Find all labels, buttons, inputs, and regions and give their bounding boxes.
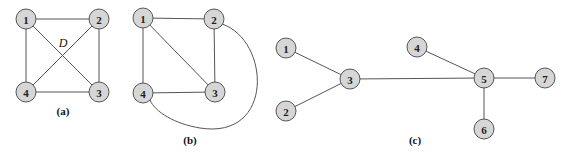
node-label: 6: [481, 124, 487, 136]
caption-c: (c): [409, 134, 422, 147]
node-c-3: 3: [340, 69, 360, 89]
node-c-4: 4: [407, 37, 427, 57]
node-c-5: 5: [474, 68, 494, 88]
edge-b-1-3: [143, 18, 215, 92]
annotation-a: D: [58, 36, 68, 50]
edge-c-2-3: [286, 79, 350, 111]
edge-c-3-5: [350, 78, 484, 79]
node-b-3: 3: [205, 82, 225, 102]
node-label: 1: [23, 14, 29, 26]
node-b-4: 4: [133, 83, 153, 103]
node-label: 2: [96, 14, 102, 26]
edge-b-2-3: [214, 19, 215, 92]
node-c-7: 7: [535, 68, 555, 88]
edge-b-3-4: [143, 92, 215, 93]
curved-edge-b-2-4: [150, 24, 257, 129]
edge-b-1-2: [143, 18, 214, 19]
node-c-6: 6: [474, 119, 494, 139]
caption-b: (b): [183, 134, 197, 147]
node-label: 3: [212, 87, 218, 99]
node-a-4: 4: [16, 82, 36, 102]
node-b-1: 1: [133, 8, 153, 28]
node-b-2: 2: [204, 9, 224, 29]
node-label: 2: [283, 106, 289, 118]
node-label: 4: [414, 42, 420, 54]
node-a-2: 2: [89, 9, 109, 29]
node-c-1: 1: [276, 38, 296, 58]
node-label: 3: [96, 87, 102, 99]
node-label: 2: [211, 14, 217, 26]
graph-figure: 123412341234567 (a)D(b)(c): [0, 0, 573, 155]
node-label: 1: [140, 13, 146, 25]
edge-c-4-5: [417, 47, 484, 78]
node-label: 7: [542, 73, 548, 85]
captions-layer: (a)D(b)(c): [57, 36, 422, 147]
caption-a: (a): [57, 105, 70, 118]
node-label: 4: [23, 87, 29, 99]
edge-c-1-3: [286, 48, 350, 79]
node-label: 1: [283, 43, 289, 55]
node-label: 5: [481, 73, 487, 85]
node-c-2: 2: [276, 101, 296, 121]
node-a-3: 3: [89, 82, 109, 102]
node-a-1: 1: [16, 9, 36, 29]
node-label: 4: [140, 88, 146, 100]
node-label: 3: [347, 74, 353, 86]
